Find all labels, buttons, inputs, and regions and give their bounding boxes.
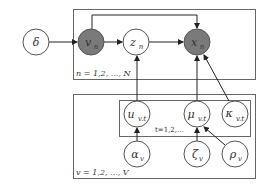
plate-t-label: t=1,2,...: [155, 126, 184, 134]
label-v-n-sub: n: [94, 43, 99, 51]
label-x-n: x: [191, 36, 198, 49]
label-x-n-sub: n: [200, 43, 205, 51]
label-u-vt-sub: v.t: [138, 115, 146, 123]
label-mu-vt: μ: [187, 108, 194, 121]
label-delta: δ: [33, 36, 40, 49]
label-alpha-v: α: [131, 148, 139, 161]
label-alpha-v-sub: v: [140, 155, 144, 163]
label-mu-vt-sub: v.t: [198, 115, 206, 123]
plate-n-label: n = 1,2, ..., N: [76, 69, 131, 78]
label-v-n: v: [85, 36, 92, 49]
label-z-n: z: [129, 36, 136, 49]
label-u-vt: u: [127, 108, 134, 121]
label-kappa-vt-sub: v.t: [236, 115, 244, 123]
edge-vn-xn: [92, 15, 197, 29]
label-zeta-v: ζ: [192, 148, 199, 161]
node-z-n: [123, 29, 149, 55]
graphical-model-diagram: δ v n z n x n u v.t μ v.t κ v.t α v ζ v …: [0, 0, 269, 189]
label-rho-v-sub: v: [238, 155, 242, 163]
label-rho-v: ρ: [229, 148, 237, 161]
plate-v-label: v = 1,2, ..., V: [76, 168, 130, 177]
label-kappa-vt: κ: [224, 107, 233, 120]
label-z-n-sub: n: [139, 43, 144, 51]
label-zeta-v-sub: v: [199, 155, 203, 163]
